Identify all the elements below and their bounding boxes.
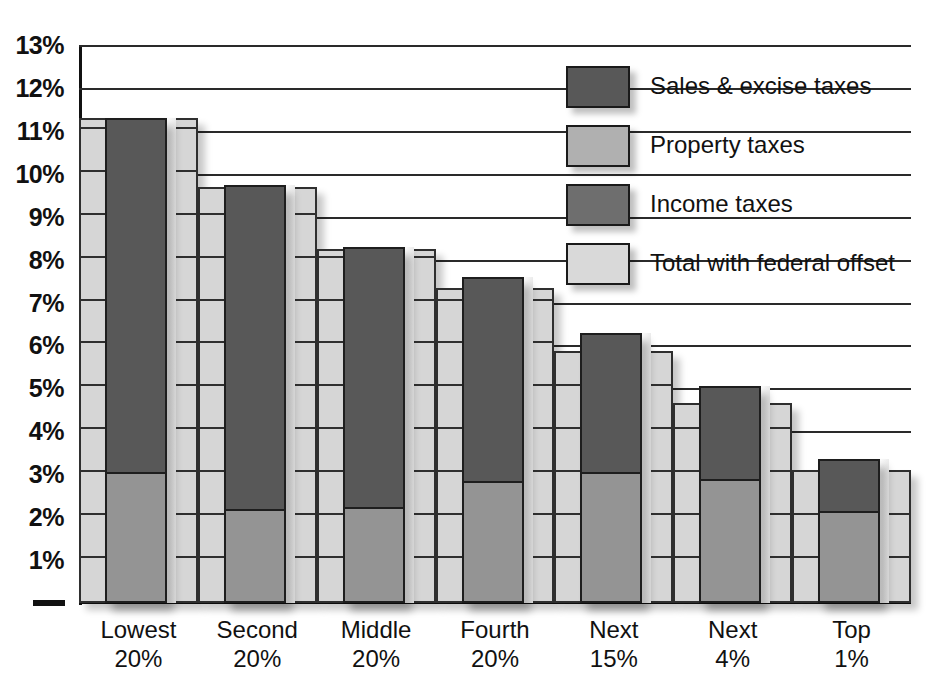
y-axis-baseline-tick	[33, 600, 65, 606]
x-tick-label-line2: 20%	[198, 644, 317, 673]
chart-legend: Sales & excise taxesProperty taxesIncome…	[566, 66, 866, 302]
bar-segment-sales-excise-taxes[interactable]	[701, 388, 759, 482]
bar-highlight-strip	[642, 333, 651, 603]
y-tick-label: 4%	[29, 419, 64, 444]
x-tick-label-line1: Lowest	[79, 615, 198, 644]
stacked-bar[interactable]	[699, 386, 761, 603]
bar-highlight-strip	[880, 459, 889, 603]
stacked-bar[interactable]	[343, 247, 405, 603]
stacked-bar[interactable]	[580, 333, 642, 603]
bar-segment-sales-excise-taxes[interactable]	[345, 249, 403, 511]
x-tick-label-line1: Middle	[317, 615, 436, 644]
y-tick-label: 9%	[29, 204, 64, 229]
bar-segment-income-taxes[interactable]	[582, 472, 640, 601]
legend-label: Income taxes	[650, 190, 793, 218]
bar-highlight-strip	[286, 185, 295, 604]
bar-segment-income-taxes[interactable]	[464, 481, 522, 601]
x-tick-label: Second20%	[198, 615, 317, 674]
bar-highlight-strip	[761, 386, 770, 603]
bar-group[interactable]	[317, 45, 436, 603]
bar-segment-sales-excise-taxes[interactable]	[107, 120, 165, 476]
legend-swatch	[566, 243, 630, 285]
x-tick-label-line1: Next	[673, 615, 792, 644]
legend-label: Property taxes	[650, 131, 805, 159]
y-tick-label: 8%	[29, 247, 64, 272]
bar-segment-income-taxes[interactable]	[820, 511, 878, 601]
x-tick-label: Fourth20%	[436, 615, 555, 674]
y-tick-label: 5%	[29, 376, 64, 401]
legend-swatch	[566, 66, 630, 108]
bar-segment-income-taxes[interactable]	[226, 509, 284, 601]
bar-group[interactable]	[436, 45, 555, 603]
legend-item[interactable]: Property taxes	[566, 125, 866, 184]
x-tick-label-line2: 4%	[673, 644, 792, 673]
stacked-bar[interactable]	[105, 118, 167, 603]
y-tick-label: 3%	[29, 462, 64, 487]
y-tick-label: 13%	[15, 33, 64, 58]
bar-segment-sales-excise-taxes[interactable]	[582, 335, 640, 477]
bar-segment-sales-excise-taxes[interactable]	[464, 279, 522, 485]
y-tick-label: 1%	[29, 548, 64, 573]
legend-item[interactable]: Total with federal offset	[566, 243, 866, 302]
x-tick-label: Middle20%	[317, 615, 436, 674]
y-axis: 1%2%3%4%5%6%7%8%9%10%11%12%13%	[0, 0, 72, 689]
stacked-bar[interactable]	[462, 277, 524, 603]
y-tick-label: 10%	[15, 161, 64, 186]
x-tick-label-line2: 15%	[554, 644, 673, 673]
bar-group[interactable]	[79, 45, 198, 603]
x-tick-label-line1: Next	[554, 615, 673, 644]
legend-swatch	[566, 184, 630, 226]
x-axis: Lowest20%Second20%Middle20%Fourth20%Next…	[0, 615, 939, 689]
x-tick-label: Lowest20%	[79, 615, 198, 674]
bar-highlight-strip	[405, 247, 414, 603]
y-tick-label: 7%	[29, 290, 64, 315]
bar-group[interactable]	[198, 45, 317, 603]
y-tick-label: 6%	[29, 333, 64, 358]
stacked-bar[interactable]	[224, 185, 286, 604]
x-tick-label-line1: Second	[198, 615, 317, 644]
legend-label: Total with federal offset	[650, 249, 895, 277]
legend-label: Sales & excise taxes	[650, 72, 871, 100]
x-tick-label-line2: 20%	[317, 644, 436, 673]
bar-segment-sales-excise-taxes[interactable]	[820, 461, 878, 515]
bar-segment-income-taxes[interactable]	[345, 507, 403, 601]
bar-highlight-strip	[524, 277, 533, 603]
x-tick-label: Next4%	[673, 615, 792, 674]
x-tick-label-line1: Fourth	[436, 615, 555, 644]
bar-segment-sales-excise-taxes[interactable]	[226, 187, 284, 513]
bar-highlight-strip	[167, 118, 176, 603]
x-tick-label-line2: 1%	[792, 644, 911, 673]
x-tick-label-line1: Top	[792, 615, 911, 644]
tax-incidence-bar-chart: 1%2%3%4%5%6%7%8%9%10%11%12%13% Lowest20%…	[0, 0, 939, 689]
legend-item[interactable]: Sales & excise taxes	[566, 66, 866, 125]
x-tick-label: Top1%	[792, 615, 911, 674]
x-tick-label: Next15%	[554, 615, 673, 674]
legend-swatch	[566, 125, 630, 167]
stacked-bar[interactable]	[818, 459, 880, 603]
bar-segment-income-taxes[interactable]	[107, 472, 165, 601]
x-tick-label-line2: 20%	[79, 644, 198, 673]
y-tick-label: 12%	[15, 75, 64, 100]
y-tick-label: 2%	[29, 505, 64, 530]
y-tick-label: 11%	[17, 118, 64, 143]
bar-segment-income-taxes[interactable]	[701, 479, 759, 601]
x-tick-label-line2: 20%	[436, 644, 555, 673]
legend-item[interactable]: Income taxes	[566, 184, 866, 243]
